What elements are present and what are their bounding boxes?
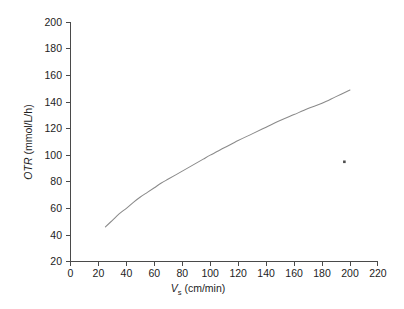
x-axis-title-units-text: (cm/min): [184, 282, 225, 294]
x-tick-label-60: 60: [148, 267, 160, 279]
y-tick-label-100: 100: [44, 149, 62, 161]
chart-figure: 20 40 60 80 100 120 140 160 180 200: [0, 0, 404, 309]
chart-canvas: 20 40 60 80 100 120 140 160 180 200: [0, 0, 404, 309]
y-tick-label-180: 180: [44, 42, 62, 54]
x-tick-label-220: 220: [369, 267, 387, 279]
x-tick-label-180: 180: [313, 267, 331, 279]
y-tick-label-20: 20: [50, 255, 62, 267]
x-tick-label-120: 120: [229, 267, 247, 279]
y-tick-label-200: 200: [44, 16, 62, 28]
y-tick-label-80: 80: [50, 175, 62, 187]
x-tick-label-140: 140: [257, 267, 275, 279]
y-tick-label-120: 120: [44, 122, 62, 134]
y-axis-title-symbol: OTR: [22, 157, 34, 180]
y-tick-label-140: 140: [44, 96, 62, 108]
x-tick-label-20: 20: [93, 267, 105, 279]
x-tick-label-160: 160: [285, 267, 303, 279]
x-tick-label-0: 0: [68, 267, 74, 279]
x-tick-label-200: 200: [341, 267, 359, 279]
y-tick-label-60: 60: [50, 202, 62, 214]
x-tick-label-80: 80: [176, 267, 188, 279]
y-axis-title-units: (mmol/L/h): [22, 104, 34, 154]
y-axis-title: OTR (mmol/L/h): [22, 104, 34, 179]
x-tick-label-100: 100: [201, 267, 219, 279]
scan-speck-artifact: [343, 160, 346, 163]
y-tick-label-160: 160: [44, 69, 62, 81]
svg-text:OTR (mmol/L/h): OTR (mmol/L/h): [22, 104, 34, 179]
x-tick-label-40: 40: [121, 267, 133, 279]
y-tick-label-40: 40: [50, 229, 62, 241]
